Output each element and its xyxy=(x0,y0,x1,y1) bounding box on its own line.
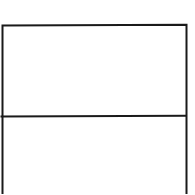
box-outline xyxy=(3,25,187,194)
bottom-section xyxy=(4,118,186,195)
box-diagram xyxy=(0,0,195,194)
top-section xyxy=(4,27,186,116)
diagram-canvas xyxy=(0,0,195,194)
horizontal-divider xyxy=(1,116,187,117)
